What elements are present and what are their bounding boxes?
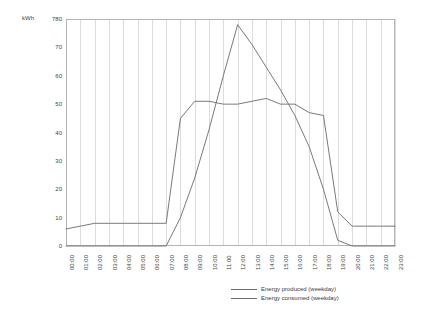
plot-area bbox=[0, 0, 421, 310]
energy-line-chart: kWh 010203040506070780 00:0001:0002:0003… bbox=[0, 0, 421, 310]
plot-background bbox=[66, 19, 395, 246]
legend-item[interactable]: Energy consumed (weekday) bbox=[231, 294, 339, 303]
legend-item[interactable]: Energy produced (weekday) bbox=[231, 285, 339, 294]
legend-item-label: Energy produced (weekday) bbox=[261, 285, 336, 294]
chart-legend: Energy produced (weekday)Energy consumed… bbox=[231, 285, 339, 303]
legend-line-swatch bbox=[231, 289, 257, 290]
legend-line-swatch bbox=[231, 298, 257, 299]
legend-item-label: Energy consumed (weekday) bbox=[261, 294, 339, 303]
